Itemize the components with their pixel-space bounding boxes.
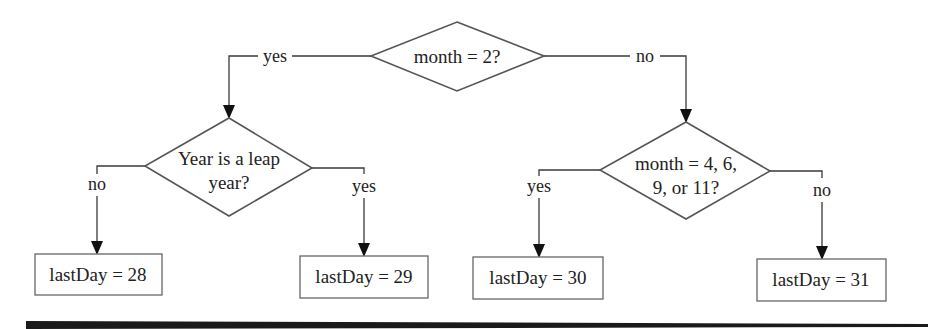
arrow-down-icon: [533, 244, 545, 258]
result-lastday-31: lastDay = 31: [757, 259, 886, 301]
flowchart-diagram: yes no no yes yes no month = 2? Year is …: [0, 0, 928, 329]
bottom-rule-divider: [26, 321, 928, 329]
decision-30-day-months: month = 4, 6, 9, or 11?: [600, 122, 770, 219]
decision-label: month = 2?: [414, 46, 501, 67]
edge-label-leap-yes: yes: [352, 176, 376, 196]
result-lastday-29: lastDay = 29: [300, 256, 428, 298]
edge-label-thirty-yes: yes: [527, 176, 551, 196]
edge-label-thirty-no: no: [813, 180, 831, 200]
decision-month-2: month = 2?: [371, 22, 544, 91]
decision-label-line-1: Year is a leap: [178, 148, 280, 169]
arrow-down-icon: [358, 243, 370, 257]
decision-label-line-2: year?: [208, 172, 249, 193]
arrow-down-icon: [680, 109, 692, 123]
edge-root-no-line: [544, 56, 686, 112]
result-label: lastDay = 30: [489, 267, 586, 288]
arrow-down-icon: [816, 246, 828, 260]
edge-label-root-yes: yes: [263, 46, 287, 66]
result-label: lastDay = 31: [772, 269, 869, 290]
result-lastday-30: lastDay = 30: [473, 257, 603, 299]
edge-root-yes-line: [229, 56, 371, 108]
arrow-down-icon: [223, 105, 235, 119]
edge-label-root-no: no: [636, 46, 654, 66]
decision-leap-year: Year is a leap year?: [145, 118, 312, 216]
decision-label-line-2: 9, or 11?: [653, 177, 719, 198]
result-label: lastDay = 29: [315, 266, 412, 287]
decision-label-line-1: month = 4, 6,: [635, 153, 737, 174]
result-label: lastDay = 28: [49, 264, 146, 285]
result-lastday-28: lastDay = 28: [35, 254, 162, 295]
arrow-down-icon: [91, 241, 103, 255]
edge-label-leap-no: no: [88, 174, 106, 194]
